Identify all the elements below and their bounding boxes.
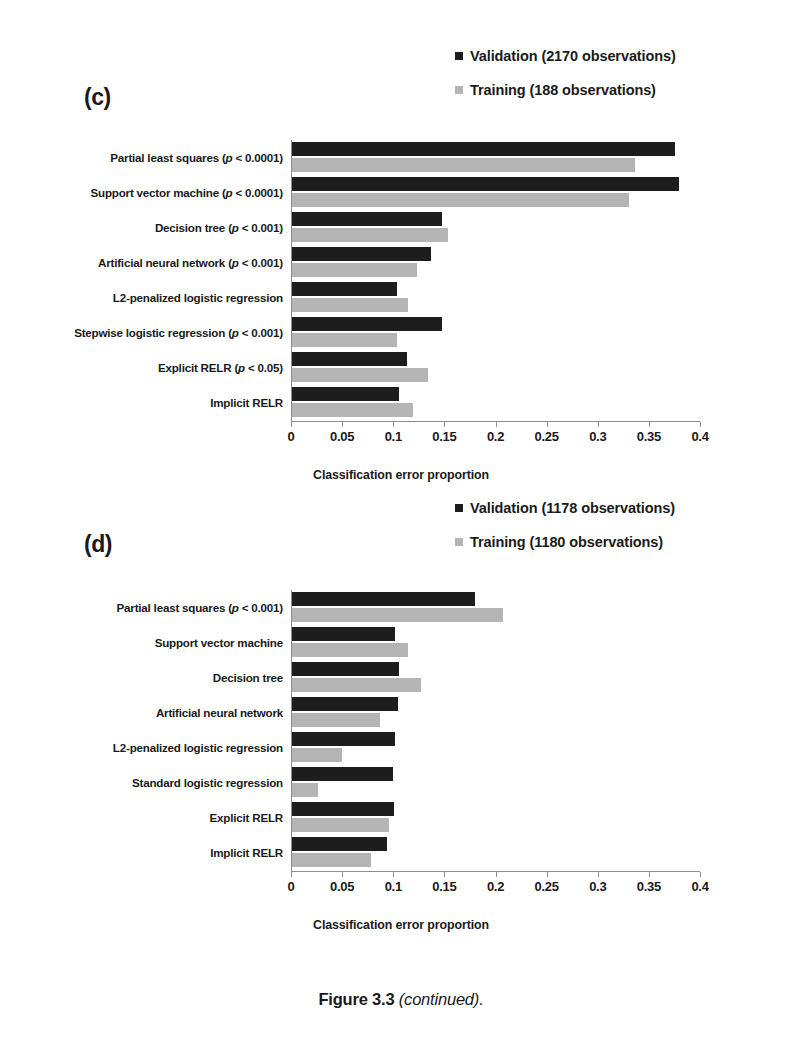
axis-tick	[649, 872, 650, 877]
axis-tick-label: 0.2	[487, 879, 504, 894]
chart-d-category-labels: Partial least squares (p < 0.001) Suppor…	[19, 590, 283, 870]
chart-d: Partial least squares (p < 0.001) Suppor…	[0, 0, 802, 1000]
bar-validation	[292, 662, 399, 676]
axis-tick-label: 0.05	[330, 879, 354, 894]
axis-tick	[700, 872, 701, 877]
bar-training	[292, 608, 503, 622]
bar-validation	[292, 802, 394, 816]
bar-training	[292, 748, 342, 762]
axis-tick	[342, 872, 343, 877]
bar-group	[292, 695, 701, 730]
bar-validation	[292, 732, 395, 746]
axis-tick-label: 0.3	[589, 879, 606, 894]
bar-training	[292, 643, 408, 657]
axis-tick	[598, 872, 599, 877]
category-label: Standard logistic regression	[19, 765, 283, 800]
axis-tick	[444, 872, 445, 877]
bar-group	[292, 730, 701, 765]
axis-tick-label: 0.4	[691, 879, 708, 894]
category-label: Decision tree	[19, 660, 283, 695]
chart-d-bars	[291, 590, 701, 871]
axis-tick-label: 0.1	[385, 879, 402, 894]
category-label: L2-penalized logistic regression	[19, 730, 283, 765]
figure-caption-main: Figure 3.3	[318, 990, 394, 1008]
bar-validation	[292, 697, 398, 711]
bar-group	[292, 800, 701, 835]
axis-tick	[393, 872, 394, 877]
category-label: Partial least squares (p < 0.001)	[19, 590, 283, 625]
bar-validation	[292, 627, 395, 641]
bar-group	[292, 660, 701, 695]
axis-tick	[547, 872, 548, 877]
panel-d: Validation (1178 observations) Training …	[0, 0, 802, 1000]
bar-group	[292, 625, 701, 660]
axis-tick	[496, 872, 497, 877]
category-label: Artificial neural network	[19, 695, 283, 730]
bar-validation	[292, 837, 387, 851]
bar-group	[292, 590, 701, 625]
axis-tick-label: 0.35	[637, 879, 661, 894]
bar-validation	[292, 767, 393, 781]
figure-caption: Figure 3.3 (continued).	[0, 990, 802, 1009]
axis-tick-label: 0.15	[432, 879, 456, 894]
bar-group	[292, 835, 701, 870]
bar-validation	[292, 592, 475, 606]
bar-training	[292, 818, 389, 832]
chart-d-axis-title: Classification error proportion	[0, 918, 802, 932]
category-label: Explicit RELR	[19, 800, 283, 835]
axis-tick-label: 0.25	[535, 879, 559, 894]
category-label: Support vector machine	[19, 625, 283, 660]
category-label: Implicit RELR	[19, 835, 283, 870]
bar-group	[292, 765, 701, 800]
bar-training	[292, 853, 371, 867]
figure-caption-note: (continued).	[399, 990, 484, 1008]
chart-d-x-axis: 00.050.10.150.20.250.30.350.4	[291, 871, 700, 872]
axis-tick-label: 0	[288, 879, 295, 894]
bar-training	[292, 783, 318, 797]
bar-training	[292, 713, 380, 727]
axis-tick	[291, 872, 292, 877]
bar-training	[292, 678, 421, 692]
